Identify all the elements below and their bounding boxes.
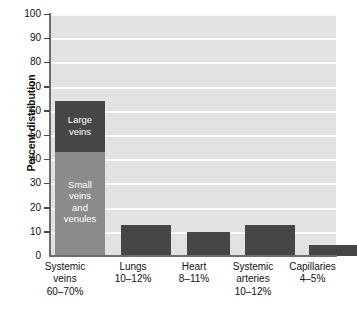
y-tick-20	[44, 207, 50, 209]
x-label-capillaries-value: 4–5%	[275, 273, 350, 285]
small-veins-line1: Small	[68, 179, 92, 190]
gridline-100	[51, 14, 336, 16]
y-tick-label-20: 20	[0, 203, 41, 213]
y-tick-label-70: 70	[0, 82, 41, 92]
y-tick-40	[44, 159, 50, 161]
y-tick-70	[44, 86, 50, 88]
bar-segment-large-veins[interactable]: Large veins	[55, 101, 105, 152]
bar-systemic-arteries[interactable]	[245, 225, 295, 256]
gridline-90	[51, 38, 336, 40]
large-veins-line1: Large	[68, 114, 92, 125]
small-veins-line2: veins	[69, 190, 91, 201]
small-veins-line3: and	[72, 202, 88, 213]
x-label-systemic-arteries-value: 10–12%	[214, 286, 292, 298]
y-tick-label-90: 90	[0, 33, 41, 43]
y-tick-100	[44, 14, 50, 16]
bar-lungs[interactable]	[121, 225, 171, 257]
x-label-systemic-veins-line1: Systemic	[25, 261, 105, 273]
large-veins-line2: veins	[69, 126, 91, 137]
y-tick-80	[44, 62, 50, 64]
bar-systemic-veins[interactable]: Large veins Small veins and venules	[55, 101, 105, 256]
y-tick-label-10: 10	[0, 227, 41, 237]
y-tick-label-80: 80	[0, 57, 41, 67]
small-veins-line4: venules	[64, 213, 97, 224]
x-label-systemic-veins-line2: veins	[25, 273, 105, 285]
gridline-80	[51, 62, 336, 64]
x-label-capillaries-line1: Capillaries	[275, 261, 350, 273]
y-tick-10	[44, 231, 50, 233]
plot-area: Large veins Small veins and venules	[51, 14, 336, 256]
y-tick-label-40: 40	[0, 154, 41, 164]
bar-segment-large-veins-label: Large veins	[55, 114, 105, 137]
x-axis-line	[49, 255, 337, 257]
y-tick-label-0: 0	[0, 251, 41, 261]
x-label-systemic-veins: Systemic veins 60–70%	[25, 261, 105, 298]
bar-segment-small-veins-venules[interactable]: Small veins and venules	[55, 152, 105, 256]
y-tick-90	[44, 38, 50, 40]
y-tick-30	[44, 183, 50, 185]
y-tick-60	[44, 110, 50, 112]
bar-segment-small-veins-label: Small veins and venules	[55, 179, 105, 225]
x-label-systemic-veins-value: 60–70%	[25, 286, 105, 298]
y-tick-label-30: 30	[0, 178, 41, 188]
y-tick-label-50: 50	[0, 130, 41, 140]
y-tick-label-100: 100	[0, 9, 41, 19]
bar-heart[interactable]	[187, 232, 230, 256]
x-label-capillaries: Capillaries 4–5%	[275, 261, 350, 286]
gridline-70	[51, 87, 336, 89]
y-tick-50	[44, 135, 50, 137]
y-tick-label-60: 60	[0, 106, 41, 116]
